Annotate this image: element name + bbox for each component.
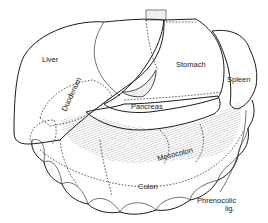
- label-duodenum: Duodenum: [60, 76, 84, 113]
- label-spleen: Spleen: [227, 75, 250, 84]
- stomach-outline: [104, 19, 224, 113]
- label-liver: Liver: [42, 55, 59, 64]
- label-pancreas: Pancreas: [131, 102, 163, 111]
- label-phrenocolic-lig: lig.: [225, 204, 235, 213]
- esophagus: [146, 10, 166, 20]
- anatomy-diagram: Liver Stomach Spleen Duodenum Pancreas M…: [0, 0, 268, 223]
- lesser-omentum-wedge: [122, 70, 156, 97]
- label-stomach: Stomach: [176, 60, 206, 69]
- liver-lobe-line: [94, 22, 120, 96]
- label-colon: Colon: [138, 182, 158, 191]
